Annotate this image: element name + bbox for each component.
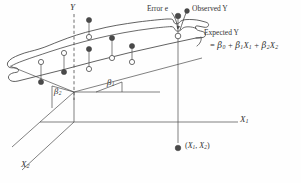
ground-axes: [12, 82, 238, 170]
beta2-slope-subscript: 2: [59, 90, 62, 96]
observed-marker-dot: [185, 9, 190, 14]
beta1-slope-label: β1: [107, 79, 114, 88]
expected-point: [175, 33, 181, 39]
beta1-slope-subscript: 1: [112, 81, 115, 87]
error-text: Error e: [147, 4, 168, 13]
plus-2: +: [254, 40, 259, 50]
residual-pair: [86, 17, 91, 39]
base-point-marker: [175, 145, 181, 151]
observed-label: Observed Y: [192, 5, 228, 13]
regression-equation: = β0 + β1X1 + β2X2: [210, 41, 278, 51]
diagram-canvas: .s{fill:none;stroke:#3a3a3a;stroke-width…: [0, 0, 301, 183]
expected-text: Expected Y: [204, 28, 239, 37]
x1-subscript: 1: [249, 44, 252, 50]
regression-plane-figure: .s{fill:none;stroke:#3a3a3a;stroke-width…: [0, 0, 301, 183]
x2-axis-line: [22, 122, 74, 170]
plus-1: +: [228, 40, 233, 50]
residual-pair: [129, 43, 134, 64]
x2-axis-label: X2: [21, 160, 30, 169]
x1-axis-label: X1: [240, 115, 249, 124]
x2-subscript: 2: [275, 44, 278, 50]
coord-comma: ,: [195, 141, 197, 150]
x1-axis-subscript: 1: [246, 118, 249, 124]
beta2-slope-label: β2: [54, 88, 61, 97]
beta0-subscript: 0: [222, 44, 225, 50]
paren-close: ): [207, 141, 210, 150]
ground-left-extension: [12, 122, 40, 147]
y-axis-label: Y: [70, 3, 75, 12]
expected-label: Expected Y: [204, 29, 239, 37]
observed-text: Observed Y: [192, 4, 228, 13]
error-label: Error e: [147, 5, 168, 13]
point-coordinates-label: (X1, X2): [185, 142, 210, 151]
observed-point: [175, 13, 181, 19]
expected-callout: [197, 37, 201, 46]
eq-sign: =: [210, 40, 215, 50]
x2-axis-subscript: 2: [27, 163, 30, 169]
